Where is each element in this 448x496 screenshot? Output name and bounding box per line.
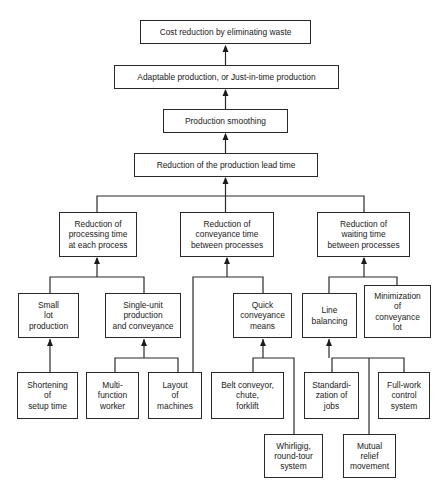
node-label: Mutual relief movement [350, 441, 389, 472]
diagram-canvas: Cost reduction by eliminating waste Adap… [0, 0, 448, 496]
node-label: Small lot production [29, 300, 68, 331]
node-label: Quick conveyance means [240, 300, 285, 331]
node-label: Minimization of conveyance lot [374, 291, 421, 332]
node-small-lot: Small lot production [18, 293, 79, 338]
node-lead-time-reduction: Reduction of the production lead time [134, 153, 318, 177]
node-label: Cost reduction by eliminating waste [160, 27, 292, 37]
node-full-work-control: Full-work control system [378, 372, 430, 419]
node-label: Multi- function worker [98, 380, 127, 411]
node-adaptable-production: Adaptable production, or Just-in-time pr… [114, 65, 339, 89]
node-line-balancing: Line balancing [302, 293, 357, 338]
node-label: Shortening of setup time [27, 380, 68, 411]
node-label: Reduction of processing time at each pro… [68, 219, 127, 250]
node-label: Full-work control system [387, 380, 421, 411]
node-label: Whirligig, round-tour system [274, 441, 313, 472]
node-label: Adaptable production, or Just-in-time pr… [137, 72, 315, 82]
node-conveyance-time: Reduction of conveyance time between pro… [180, 212, 274, 257]
node-setup-time: Shortening of setup time [17, 372, 78, 419]
node-whirligig: Whirligig, round-tour system [264, 434, 323, 478]
node-label: Reduction of conveyance time between pro… [191, 219, 263, 250]
node-minimization-lot: Minimization of conveyance lot [364, 285, 431, 338]
node-multi-function-worker: Multi- function worker [86, 372, 139, 419]
node-label: Standardi- zation of jobs [312, 380, 351, 411]
node-waiting-time: Reduction of waiting time between proces… [317, 212, 410, 257]
node-label: Belt conveyor, chute, forklift [221, 380, 274, 411]
node-label: Single-unit production and conveyance [113, 300, 174, 331]
node-standardization: Standardi- zation of jobs [304, 372, 359, 419]
node-production-smoothing: Production smoothing [163, 109, 288, 133]
node-belt-conveyor: Belt conveyor, chute, forklift [211, 372, 284, 419]
node-processing-time: Reduction of processing time at each pro… [59, 212, 137, 257]
node-single-unit: Single-unit production and conveyance [105, 293, 181, 338]
node-mutual-relief: Mutual relief movement [343, 434, 396, 478]
node-cost-reduction: Cost reduction by eliminating waste [140, 20, 311, 44]
node-quick-conveyance: Quick conveyance means [233, 293, 292, 338]
node-label: Reduction of waiting time between proces… [327, 219, 399, 250]
node-label: Layout of machines [157, 380, 193, 411]
node-layout-machines: Layout of machines [148, 372, 202, 419]
node-label: Reduction of the production lead time [157, 160, 296, 170]
node-label: Line balancing [312, 305, 348, 325]
node-label: Production smoothing [185, 116, 266, 126]
